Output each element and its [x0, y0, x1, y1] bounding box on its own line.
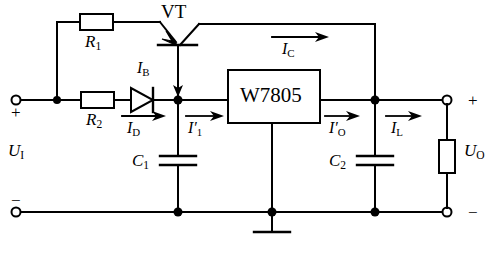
current-ic-label: IC [282, 41, 295, 59]
il-sub: L [396, 126, 403, 138]
r1-base: R [85, 32, 95, 51]
current-arrow-ic [272, 32, 329, 42]
diode-triangle [131, 88, 153, 112]
current-i1-prime-label: I′1 [188, 120, 202, 138]
r2-sub: 2 [96, 118, 102, 131]
c1-base: C [132, 151, 143, 170]
c2-base: C [329, 151, 340, 170]
circuit-schematic-svg [0, 0, 491, 255]
resistor-r1-body [80, 14, 113, 30]
r1-sub: 1 [95, 40, 101, 53]
i1p-sub: 1 [197, 126, 202, 138]
transistor-label: VT [161, 2, 186, 21]
input-voltage-label: UI [8, 142, 24, 162]
transistor-collector-lead [180, 24, 199, 45]
ui-sub: I [20, 149, 24, 162]
ui-base: U [8, 141, 20, 160]
load-resistor-body [439, 140, 455, 173]
ic-sub: C [287, 47, 294, 59]
c1-sub: 1 [143, 159, 149, 172]
capacitor-c2-label: C2 [329, 152, 346, 172]
output-plus-sign: + [468, 92, 478, 109]
resistor-r2-label: R2 [86, 111, 102, 131]
output-minus-sign: − [468, 204, 478, 221]
current-io-prime-label: I′O [329, 120, 346, 138]
current-id-label: ID [127, 120, 140, 138]
input-plus-sign: + [11, 104, 21, 121]
circuit-diagram-figure: VT R1 R2 W7805 C1 C2 UI UO IB IC ID I′1 … [0, 0, 491, 255]
uo-sub: O [476, 149, 484, 162]
junction-dot-c2-bottom [371, 208, 380, 217]
id-sub: D [132, 126, 140, 138]
regulator-label: W7805 [240, 85, 302, 106]
junction-dot-c1-bottom [174, 208, 183, 217]
capacitor-c1-label: C1 [132, 152, 149, 172]
output-voltage-label: UO [464, 142, 485, 162]
resistor-r1-label: R1 [85, 33, 101, 53]
r2-base: R [86, 110, 96, 129]
current-arrow-ib [173, 58, 183, 97]
current-ib-label: IB [137, 60, 150, 78]
resistor-r2-body [81, 92, 114, 108]
uo-base: U [464, 141, 476, 160]
current-il-label: IL [391, 120, 403, 138]
c2-sub: 2 [340, 159, 346, 172]
ib-sub: B [142, 66, 149, 78]
iop-sub: O [338, 126, 346, 138]
input-minus-sign: − [11, 192, 21, 209]
